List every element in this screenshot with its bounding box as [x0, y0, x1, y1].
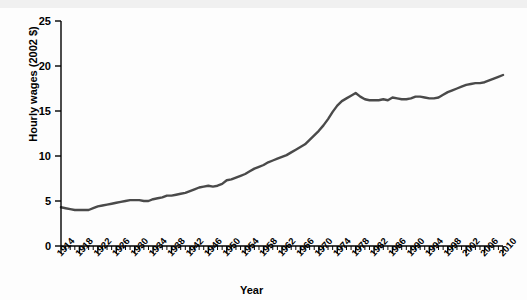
y-tick-label: 15: [39, 105, 51, 117]
wage-series-line: [61, 75, 503, 210]
x-tick-label: 1966: [294, 235, 316, 258]
x-tick-label: 1950: [220, 235, 242, 258]
x-tick-label: 2002: [459, 235, 481, 258]
line-chart-plot: 0510152025 19141918192219261930193419381…: [0, 0, 527, 300]
x-tick-label: 1926: [110, 235, 132, 258]
x-tick-label: 1930: [128, 235, 150, 258]
x-tick-label: 1998: [441, 235, 463, 258]
chart-figure: Hourly wages (2002 $) Year 0510152025 19…: [0, 0, 527, 300]
y-tick-label: 0: [45, 240, 51, 252]
x-tick-label: 1946: [202, 235, 224, 258]
x-tick-label: 1958: [257, 235, 279, 258]
x-tick-label: 1918: [73, 235, 95, 258]
x-tick-label: 1942: [183, 235, 205, 258]
x-tick-label: 1986: [386, 235, 408, 258]
x-tick-label: 2010: [496, 235, 518, 258]
x-tick-label: 1970: [312, 235, 334, 258]
x-tick-label: 1982: [367, 235, 389, 258]
x-tick-label: 1922: [91, 235, 113, 258]
y-tick-label: 20: [39, 60, 51, 72]
y-tick-label: 5: [45, 195, 51, 207]
x-tick-label: 1978: [349, 235, 371, 258]
x-tick-label: 1990: [404, 235, 426, 258]
x-tick-label: 2006: [478, 235, 500, 258]
y-tick-label: 25: [39, 15, 51, 27]
y-axis: 0510152025: [39, 15, 61, 252]
x-tick-label: 1962: [275, 235, 297, 258]
y-tick-label: 10: [39, 150, 51, 162]
x-tick-label: 1938: [165, 235, 187, 258]
